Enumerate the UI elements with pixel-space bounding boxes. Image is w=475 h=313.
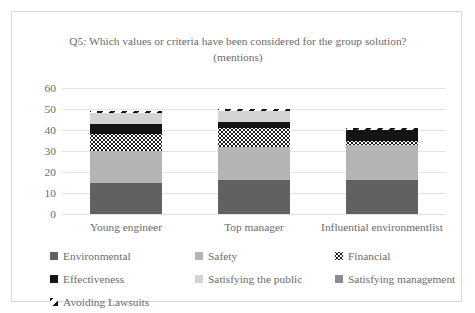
bar-segment-environmental[interactable] <box>90 183 162 215</box>
chart-legend: Environmental Safety Financial Effective… <box>50 244 458 313</box>
legend-swatch-environmental <box>50 252 58 260</box>
legend-item-environmental[interactable]: Environmental <box>50 250 195 262</box>
bar-top-manager[interactable] <box>218 109 290 214</box>
gridline-60 <box>62 88 446 89</box>
legend-row: Environmental Safety Financial <box>50 244 458 267</box>
legend-label: Satisfying management <box>348 273 455 285</box>
plot-area: 0102030405060Young engineerTop managerIn… <box>62 88 446 214</box>
bar-segment-environmental[interactable] <box>218 180 290 214</box>
legend-label: Effectiveness <box>63 273 124 285</box>
bar-segment-satisfying-the-public[interactable] <box>90 113 162 124</box>
y-axis-tick-20: 20 <box>45 166 56 178</box>
bar-segment-safety[interactable] <box>346 145 418 181</box>
legend-item-avoiding-lawsuits[interactable]: Avoiding Lawsuits <box>50 296 195 308</box>
legend-swatch-satisfying-management <box>335 275 343 283</box>
bar-segment-environmental[interactable] <box>346 180 418 214</box>
legend-item-effectiveness[interactable]: Effectiveness <box>50 273 195 285</box>
legend-label: Financial <box>348 250 390 262</box>
legend-item-safety[interactable]: Safety <box>195 250 335 262</box>
y-axis-tick-60: 60 <box>45 82 56 94</box>
legend-item-satisfying-management[interactable]: Satisfying management <box>335 273 455 285</box>
bar-young-engineer[interactable] <box>90 111 162 214</box>
bar-influential-environmentlist[interactable] <box>346 128 418 214</box>
bar-segment-safety[interactable] <box>90 151 162 183</box>
legend-label: Environmental <box>63 250 131 262</box>
bar-segment-effectiveness[interactable] <box>346 130 418 141</box>
y-axis-tick-0: 0 <box>50 208 56 220</box>
legend-item-satisfying-the-public[interactable]: Satisfying the public <box>195 273 335 285</box>
y-axis-tick-10: 10 <box>45 187 56 199</box>
gridline-0 <box>62 214 446 215</box>
y-axis-tick-40: 40 <box>45 124 56 136</box>
y-axis-tick-30: 30 <box>45 145 56 157</box>
legend-label: Avoiding Lawsuits <box>63 296 149 308</box>
y-axis-tick-50: 50 <box>45 103 56 115</box>
legend-swatch-satisfying-the-public <box>195 275 203 283</box>
legend-swatch-safety <box>195 252 203 260</box>
bar-segment-satisfying-the-public[interactable] <box>218 111 290 122</box>
chart-title: Q5: Which values or criteria have been c… <box>50 33 426 65</box>
legend-swatch-effectiveness <box>50 275 58 283</box>
x-axis-label-1: Top manager <box>224 221 284 233</box>
legend-item-financial[interactable]: Financial <box>335 250 390 262</box>
bar-segment-safety[interactable] <box>218 147 290 181</box>
bar-segment-effectiveness[interactable] <box>90 124 162 135</box>
legend-label: Safety <box>208 250 237 262</box>
legend-row: Avoiding Lawsuits <box>50 290 458 313</box>
x-axis-label-2: Influential environmentlist <box>321 221 443 233</box>
bar-segment-financial[interactable] <box>218 128 290 147</box>
chart-card: Q5: Which values or criteria have been c… <box>11 11 462 302</box>
legend-label: Satisfying the public <box>208 273 302 285</box>
bar-segment-financial[interactable] <box>90 134 162 151</box>
legend-swatch-financial <box>335 252 343 260</box>
legend-swatch-avoiding-lawsuits <box>50 298 58 306</box>
legend-row: Effectiveness Satisfying the public Sati… <box>50 267 458 290</box>
x-axis-label-0: Young engineer <box>90 221 162 233</box>
